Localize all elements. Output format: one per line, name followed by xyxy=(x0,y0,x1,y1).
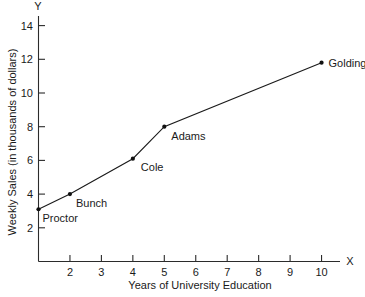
y-tick-label: 12 xyxy=(21,53,33,65)
y-tick-label: 10 xyxy=(21,87,33,99)
x-tick-label: 6 xyxy=(193,266,199,278)
x-tick-group: 2345678910 xyxy=(67,255,328,278)
line-chart: 2468101214 Y Weekly Sales (in thousands … xyxy=(0,0,365,297)
data-point-label: Adams xyxy=(171,130,206,142)
y-tick-label: 8 xyxy=(27,121,33,133)
x-tick-label: 5 xyxy=(161,266,167,278)
data-point xyxy=(68,192,72,196)
data-point xyxy=(131,157,135,161)
x-tick-label: 3 xyxy=(98,266,104,278)
data-point-label: Proctor xyxy=(43,212,79,224)
y-axis: 2468101214 Y Weekly Sales (in thousands … xyxy=(6,0,45,262)
x-axis-title: Years of University Education xyxy=(128,279,271,291)
y-axis-title: Weekly Sales (in thousands of dollars) xyxy=(6,49,18,236)
data-label-group: ProctorBunchColeAdamsGolding xyxy=(43,57,365,225)
data-point-label: Golding xyxy=(329,57,365,69)
x-axis: 2345678910 X Years of University Educati… xyxy=(39,255,355,291)
y-tick-label: 14 xyxy=(21,20,33,32)
chart-container: 2468101214 Y Weekly Sales (in thousands … xyxy=(0,0,365,297)
x-tick-label: 8 xyxy=(256,266,262,278)
y-axis-name: Y xyxy=(34,0,42,12)
data-series: ProctorBunchColeAdamsGolding xyxy=(36,57,365,225)
data-point xyxy=(36,207,40,211)
data-point xyxy=(162,125,166,129)
x-tick-label: 2 xyxy=(67,266,73,278)
y-tick-label: 6 xyxy=(27,154,33,166)
x-tick-label: 7 xyxy=(224,266,230,278)
x-tick-label: 4 xyxy=(130,266,136,278)
data-point-label: Bunch xyxy=(76,197,107,209)
x-tick-label: 10 xyxy=(315,266,327,278)
y-tick-group: 2468101214 xyxy=(21,20,45,234)
y-tick-label: 2 xyxy=(27,222,33,234)
data-point xyxy=(319,61,323,65)
data-point-label: Cole xyxy=(141,161,164,173)
x-axis-name: X xyxy=(346,255,354,267)
x-tick-label: 9 xyxy=(287,266,293,278)
y-tick-label: 4 xyxy=(27,188,33,200)
